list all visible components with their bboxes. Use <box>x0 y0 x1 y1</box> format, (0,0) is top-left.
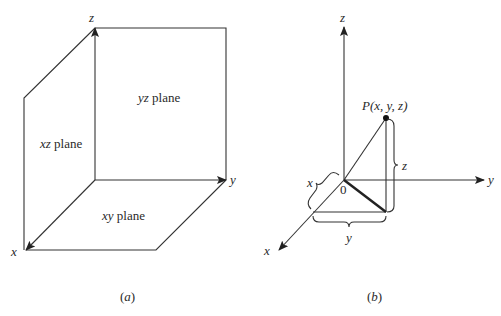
yz-plane-label: yz plane <box>136 90 180 105</box>
coordinate-figures: z y x yz plane xz plane xy plane (a) z y… <box>0 0 501 316</box>
xy-plane-label: xy plane <box>101 208 145 223</box>
x-axis-b <box>279 180 344 250</box>
xy-projection-line <box>344 180 386 212</box>
z-axis-label-b: z <box>339 10 345 25</box>
y-brace-label: y <box>344 230 352 245</box>
figure-a: z y x yz plane xz plane xy plane (a) <box>10 10 236 304</box>
position-vector <box>344 118 386 180</box>
y-brace <box>313 216 386 227</box>
z-brace <box>387 119 398 212</box>
figure-b: z y x P(x, y, z) 0 z x y (b) <box>263 10 494 304</box>
x-axis-a <box>26 180 95 250</box>
y-axis-label-a: y <box>228 172 236 187</box>
y-axis-label-b: y <box>486 172 494 187</box>
x-axis-label-a: x <box>10 244 17 259</box>
z-brace-label: z <box>401 158 407 173</box>
xz-plane-label: xz plane <box>39 136 82 151</box>
caption-a: (a) <box>120 289 135 304</box>
z-axis-label-a: z <box>88 10 94 25</box>
x-axis-label-b: x <box>263 243 270 258</box>
x-brace-label: x <box>306 175 313 190</box>
point-p-dot <box>383 115 389 121</box>
caption-b: (b) <box>367 289 382 304</box>
point-p-label: P(x, y, z) <box>361 98 407 113</box>
origin-label: 0 <box>340 182 347 197</box>
